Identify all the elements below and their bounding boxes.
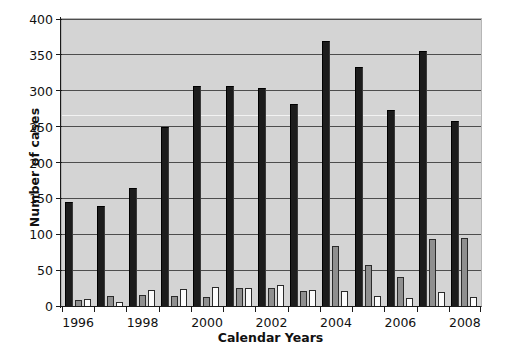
x-axis-tick-label-1996: 1996 [62,315,94,330]
y-axis-tick-label: 200 [29,155,53,170]
bar-series-3-2000 [212,287,219,306]
bar-series-1-1998 [129,188,137,306]
bar-series-1-1999 [161,127,169,306]
y-axis-tick [56,198,62,199]
y-axis-tick [56,90,62,91]
bar-series-1-2005 [355,67,363,306]
bar-series-2-2002 [268,288,275,306]
y-axis-tick [56,126,62,127]
y-axis-tick-label: 50 [37,263,53,278]
x-axis-tick [62,306,63,312]
x-axis-tick [352,306,353,312]
bar-series-3-2004 [341,291,348,306]
x-axis-tick-label-2004: 2004 [320,315,352,330]
x-axis-tick [94,306,95,312]
x-axis-tick-label-2000: 2000 [191,315,223,330]
bar-series-3-2003 [309,290,316,306]
bar-series-1-2003 [290,104,298,306]
x-axis-tick-label-2008: 2008 [449,315,481,330]
y-axis-tick-label: 400 [29,12,53,27]
y-axis-tick [56,270,62,271]
bar-series-1-2002 [258,88,266,306]
bar-series-3-2006 [406,298,413,306]
y-axis-tick-label: 150 [29,191,53,206]
y-axis-tick-label: 0 [45,299,53,314]
x-axis-tick [126,306,127,312]
y-axis-tick [56,19,62,20]
bar-series-3-1996 [84,299,91,306]
x-axis-tick-label-2006: 2006 [385,315,417,330]
bar-series-3-2007 [438,292,445,306]
bar-series-3-1997 [116,302,123,306]
x-axis-tick [159,306,160,312]
bar-series-1-2006 [387,110,395,306]
plot-area: 0501001502002503003504001996199820002002… [61,18,482,307]
bar-series-1-2000 [193,86,201,306]
y-axis-tick-label: 300 [29,83,53,98]
x-axis-tick [449,306,450,312]
bar-series-2-2004 [332,246,339,306]
bar-series-3-2002 [277,285,284,306]
bar-series-2-1996 [75,300,82,306]
bar-series-1-1997 [97,206,105,306]
bar-chart-figure: Number of cases 050100150200250300350400… [0,0,513,357]
bar-series-2-2001 [236,288,243,306]
y-axis-tick-label: 100 [29,227,53,242]
y-axis-tick-label: 250 [29,119,53,134]
gridline [62,19,481,20]
bar-series-3-2005 [374,296,381,306]
bar-series-2-2003 [300,291,307,306]
bar-series-2-2008 [461,238,468,306]
bar-series-3-1999 [180,289,187,306]
x-axis-tick [320,306,321,312]
x-axis-tick-label-2002: 2002 [256,315,288,330]
bar-series-2-2007 [429,239,436,306]
bar-series-1-1996 [65,202,73,306]
bar-series-3-2008 [470,297,477,306]
x-axis-tick [288,306,289,312]
bar-series-2-2000 [203,297,210,306]
x-axis-tick [480,306,481,312]
bar-series-1-2008 [451,121,459,306]
bar-series-1-2004 [322,41,330,306]
bar-series-2-1997 [107,296,114,306]
y-axis-tick [56,234,62,235]
bar-series-2-1998 [139,295,146,306]
bar-series-1-2007 [419,51,427,306]
y-axis-tick-label: 350 [29,47,53,62]
y-axis-tick [56,54,62,55]
bar-series-3-1998 [148,290,155,306]
y-axis-tick [56,162,62,163]
x-axis-tick-label-1998: 1998 [127,315,159,330]
x-axis-tick [255,306,256,312]
bar-series-2-2006 [397,277,404,306]
x-axis-label: Calendar Years [58,330,483,345]
bar-series-2-1999 [171,296,178,306]
x-axis-tick [417,306,418,312]
bar-series-2-2005 [365,265,372,306]
x-axis-tick [223,306,224,312]
x-axis-tick [384,306,385,312]
x-axis-tick [191,306,192,312]
bar-series-1-2001 [226,86,234,306]
bar-series-3-2001 [245,288,252,306]
